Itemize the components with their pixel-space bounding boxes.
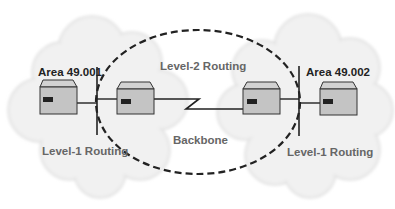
label-area-left: Area 49.001 — [38, 66, 103, 78]
label-area-right: Area 49.002 — [306, 66, 370, 78]
label-level2: Level-2 Routing — [160, 60, 246, 72]
router-icon — [40, 80, 77, 114]
router-icon — [117, 82, 154, 114]
cloud-area-49-001 — [8, 16, 188, 198]
label-level1-left: Level-1 Routing — [42, 145, 128, 157]
label-backbone: Backbone — [173, 134, 228, 146]
router-icon — [320, 82, 357, 115]
router-icon — [243, 82, 280, 114]
routing-diagram: Area 49.001 Area 49.002 Level-2 Routing … — [0, 0, 395, 209]
label-level1-right: Level-1 Routing — [287, 146, 373, 158]
